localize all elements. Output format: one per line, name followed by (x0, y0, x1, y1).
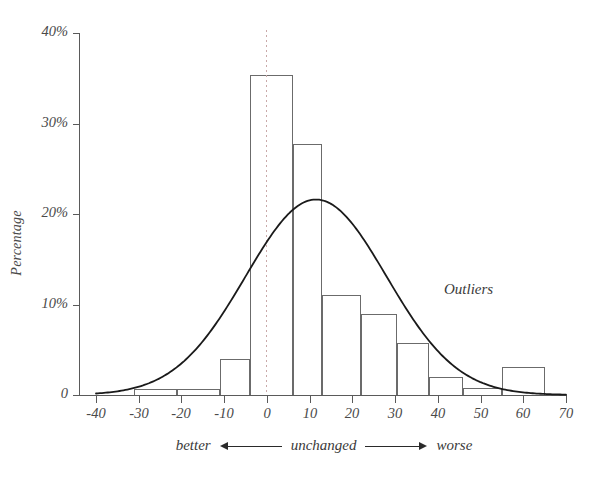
arrow-left-icon (220, 440, 282, 452)
legend-label-better: better (176, 438, 211, 453)
normal-fit-curve (0, 0, 589, 489)
direction-legend: better unchanged worse (79, 438, 569, 453)
legend-label-unchanged: unchanged (291, 438, 357, 453)
arrow-right-icon (365, 440, 427, 452)
legend-label-worse: worse (436, 438, 472, 453)
histogram-chart: Percentage 010%20%30%40% -40-30-20-10010… (0, 0, 589, 489)
outliers-annotation: Outliers (444, 281, 493, 298)
